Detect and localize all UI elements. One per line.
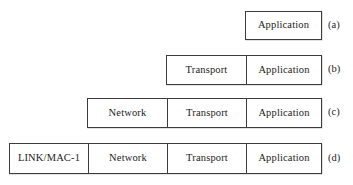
row-label-b: (b) (328, 64, 340, 75)
layer-cell-application-c: Application (246, 99, 321, 127)
layer-cell-application-a: Application (246, 12, 321, 39)
stack-row-a: Application (245, 11, 322, 40)
layer-cell-link-mac-d: LINK/MAC-1 (10, 144, 88, 173)
row-label-d: (d) (328, 153, 340, 164)
layer-cell-application-d: Application (246, 144, 321, 173)
stack-row-b-boxes: Transport Application (166, 55, 322, 85)
stack-row-d-boxes: LINK/MAC-1 Network Transport Application (9, 143, 322, 174)
layer-cell-application-b: Application (246, 56, 321, 84)
stack-row-c: Network Transport Application (87, 98, 322, 128)
layer-cell-network-d: Network (88, 144, 167, 173)
stack-row-b: Transport Application (166, 55, 322, 85)
row-label-c: (c) (328, 107, 340, 118)
layer-cell-transport-d: Transport (167, 144, 246, 173)
layer-cell-network-c: Network (88, 99, 167, 127)
protocol-stack-diagram: Application (a) Transport Application (b… (0, 0, 353, 185)
stack-row-c-boxes: Network Transport Application (87, 98, 322, 128)
layer-cell-transport-b: Transport (167, 56, 246, 84)
stack-row-a-boxes: Application (245, 11, 322, 40)
row-label-a: (a) (328, 20, 340, 31)
stack-row-d: LINK/MAC-1 Network Transport Application (9, 143, 322, 174)
layer-cell-transport-c: Transport (167, 99, 246, 127)
